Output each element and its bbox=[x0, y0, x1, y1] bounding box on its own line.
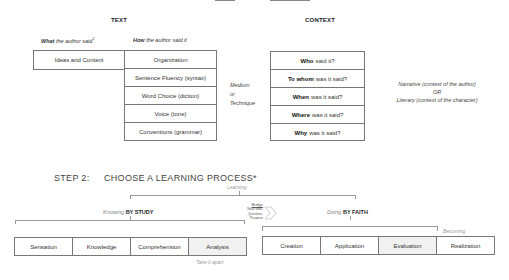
how-item-organization: Organization bbox=[125, 51, 216, 69]
note-line-3: Technique bbox=[230, 99, 255, 108]
context-stack: Whosaid it? To whomwas it said? Whenwas … bbox=[270, 51, 365, 141]
context-item-why: Whywas it said? bbox=[271, 124, 364, 142]
literary-line: Literary (context of the character) bbox=[382, 96, 492, 104]
how-item-conventions: Conventions (grammar) bbox=[125, 123, 216, 141]
how-item-sentence-fluency: Sentence Fluency (syntax) bbox=[125, 69, 216, 87]
what-label-rest: the author said bbox=[56, 38, 92, 44]
bridge-note: Bridge New Idea, Question, Purpose bbox=[237, 203, 263, 220]
cut-off-underline bbox=[215, 0, 235, 1]
learning-bracket-left bbox=[130, 195, 131, 199]
learning-bracket-right bbox=[355, 195, 356, 199]
medium-technique-note: Medium or Technique bbox=[230, 81, 255, 108]
context-side-note: Narrative (context of the author) OR Lit… bbox=[382, 80, 492, 104]
how-item-word-choice: Word Choice (diction) bbox=[125, 87, 216, 105]
by-faith-label: Doing BY FAITH bbox=[327, 209, 368, 215]
faith-bracket-top bbox=[262, 226, 438, 227]
how-label: How the author said it bbox=[133, 37, 187, 43]
how-stack: Organization Sentence Fluency (syntax) W… bbox=[124, 50, 217, 141]
what-footnote: 1 bbox=[92, 37, 94, 41]
study-bracket-left bbox=[15, 220, 16, 224]
context-item-where: Wherewas it said? bbox=[271, 106, 364, 124]
text-header: TEXT bbox=[111, 17, 127, 23]
how-label-bold: How bbox=[133, 37, 145, 43]
narrative-line: Narrative (context of the author) bbox=[382, 80, 492, 88]
process-realization: Realization bbox=[437, 237, 494, 254]
process-evaluation: Evaluation bbox=[379, 237, 437, 254]
process-analysis: Analysis bbox=[189, 238, 246, 255]
process-comprehension: Comprehension bbox=[131, 238, 189, 255]
doing-faint: Doing bbox=[327, 209, 341, 215]
how-label-rest: the author said it bbox=[146, 37, 187, 43]
bridge-line-3: Purpose bbox=[237, 216, 263, 220]
study-bracket-right bbox=[244, 220, 245, 224]
context-item-to-whom: To whomwas it said? bbox=[271, 70, 364, 88]
context-item-who: Whosaid it? bbox=[271, 52, 364, 70]
learning-bracket-top bbox=[130, 195, 356, 196]
context-item-when: Whenwas it said? bbox=[271, 88, 364, 106]
learning-label: Learning bbox=[227, 184, 246, 190]
take-it-apart-note: Take it apart bbox=[196, 259, 223, 265]
by-study-label: Knowing BY STUDY bbox=[103, 209, 153, 215]
what-label: What the author said1 bbox=[41, 37, 94, 44]
knowing-faint: Knowing bbox=[103, 209, 124, 215]
by-study-bold: BY STUDY bbox=[126, 209, 154, 215]
how-item-voice: Voice (tone) bbox=[125, 105, 216, 123]
becoming-label: Becoming bbox=[443, 228, 465, 234]
what-label-bold: What bbox=[41, 38, 54, 44]
or-line: OR bbox=[382, 88, 492, 96]
study-process-row: Sensation Knowledge Comprehension Analys… bbox=[14, 237, 247, 256]
faith-bracket-right bbox=[437, 226, 438, 231]
by-faith-bold: BY FAITH bbox=[343, 209, 368, 215]
study-bracket-top bbox=[15, 220, 245, 221]
process-application: Application bbox=[321, 237, 379, 254]
step2-title: CHOOSE A LEARNING PROCESS* bbox=[104, 173, 257, 183]
process-knowledge: Knowledge bbox=[73, 238, 131, 255]
process-creation: Creation bbox=[263, 237, 321, 254]
note-line-2: or bbox=[230, 90, 255, 99]
faith-stem bbox=[350, 216, 351, 220]
bridge-chevron-icon bbox=[264, 206, 278, 220]
ideas-and-content-box: Ideas and Content bbox=[33, 50, 125, 70]
faith-bracket-left bbox=[262, 226, 263, 231]
context-header: CONTEXT bbox=[305, 17, 335, 23]
step2-label: STEP 2: bbox=[54, 173, 89, 183]
note-line-1: Medium bbox=[230, 81, 255, 90]
faith-process-row: Creation Application Evaluation Realizat… bbox=[262, 236, 495, 255]
cut-off-underline bbox=[270, 0, 310, 1]
process-sensation: Sensation bbox=[15, 238, 73, 255]
